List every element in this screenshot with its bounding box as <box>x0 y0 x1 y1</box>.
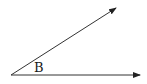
upper-ray <box>11 8 116 75</box>
angle-diagram: B <box>0 0 147 84</box>
angle-label: B <box>34 60 44 75</box>
